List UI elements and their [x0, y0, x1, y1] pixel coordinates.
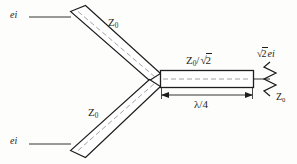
lower-arm-impedance-subscript: 0	[95, 112, 99, 120]
output-signal-symbol: ei	[268, 48, 275, 59]
quarter-wave-impedance-symbol: Z	[186, 54, 193, 66]
upper-arm-impedance-symbol: Z	[108, 16, 115, 28]
lower-input-transmission-line	[71, 80, 161, 158]
transmission-line-combiner-diagram: ei ei Z0 Z0 Z0/√2 λ/4 √2ei Z0	[0, 0, 297, 164]
quarter-wave-radical: √2	[199, 55, 212, 66]
upper-input-signal-label: ei	[10, 10, 17, 20]
lower-input-signal-label: ei	[10, 136, 17, 146]
output-radicand: 2	[262, 47, 268, 59]
diagram-canvas	[0, 0, 297, 164]
quarter-wave-impedance-label: Z0/√2	[186, 55, 212, 68]
lower-arm-body	[71, 80, 161, 158]
upper-arm-impedance-label: Z0	[108, 17, 118, 30]
output-radical: √2	[256, 49, 268, 59]
dimension-arrow-left	[161, 92, 169, 98]
quarter-wave-radicand: 2	[206, 53, 213, 66]
load-impedance-subscript: 0	[282, 96, 285, 103]
quarter-wave-transformer-section	[161, 71, 254, 88]
load-impedance-label: Z0	[276, 92, 285, 103]
lower-arm-impedance-symbol: Z	[88, 106, 95, 118]
upper-arm-impedance-subscript: 0	[115, 22, 119, 30]
dimension-arrow-right	[245, 92, 253, 98]
lower-arm-impedance-label: Z0	[88, 107, 98, 120]
quarter-wave-length-label: λ/4	[194, 99, 208, 110]
output-signal-label: √2ei	[256, 49, 275, 59]
